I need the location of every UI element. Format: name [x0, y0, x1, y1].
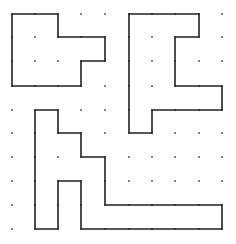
- grid-dot: [11, 156, 13, 158]
- grid-dot: [198, 60, 200, 62]
- polyomino-shapes: [12, 14, 222, 229]
- grid-dot: [104, 132, 106, 134]
- grid-dot: [174, 156, 176, 158]
- dot-grid-diagram: [0, 0, 236, 244]
- grid-dot: [104, 109, 106, 111]
- grid-dot: [151, 180, 153, 182]
- grid-dot: [11, 109, 13, 111]
- grid-dot: [198, 132, 200, 134]
- grid-dot: [34, 60, 36, 62]
- grid-dot: [151, 60, 153, 62]
- grid-dot: [221, 60, 223, 62]
- grid-dot: [198, 156, 200, 158]
- grid-dots: [11, 13, 223, 230]
- grid-dot: [34, 36, 36, 38]
- grid-dot: [11, 180, 13, 182]
- grid-dot: [221, 156, 223, 158]
- grid-dot: [80, 13, 82, 15]
- grid-dot: [11, 204, 13, 206]
- top-right-shape: [129, 14, 222, 133]
- grid-dot: [198, 180, 200, 182]
- grid-dot: [128, 156, 130, 158]
- grid-dot: [221, 132, 223, 134]
- grid-dot: [80, 109, 82, 111]
- grid-dot: [128, 180, 130, 182]
- grid-dot: [11, 228, 13, 230]
- grid-dot: [11, 132, 13, 134]
- grid-dot: [221, 180, 223, 182]
- grid-dot: [174, 180, 176, 182]
- grid-dot: [151, 85, 153, 87]
- grid-dot: [151, 36, 153, 38]
- grid-dot: [221, 13, 223, 15]
- grid-dot: [57, 156, 59, 158]
- grid-dot: [151, 156, 153, 158]
- grid-dot: [57, 60, 59, 62]
- grid-dot: [104, 85, 106, 87]
- top-left-shape: [12, 14, 105, 86]
- grid-dot: [104, 13, 106, 15]
- grid-dot: [174, 132, 176, 134]
- grid-dot: [221, 36, 223, 38]
